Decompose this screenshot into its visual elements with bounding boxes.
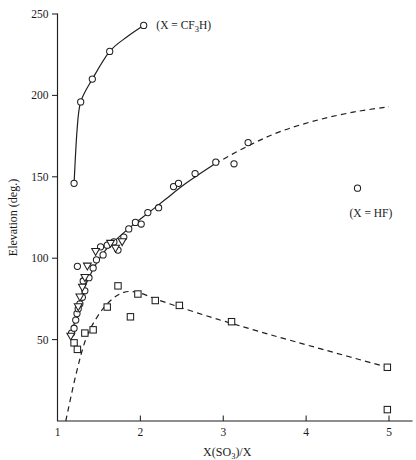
marker-triangle-down — [67, 333, 75, 340]
marker-circle — [71, 180, 77, 186]
marker-series — [68, 140, 251, 337]
marker-circle — [156, 205, 162, 211]
scatter-plot: 5010015020025012345 X(SO3)/XElevation (d… — [0, 0, 416, 460]
x-axis-label: X(SO3)/X — [203, 445, 252, 460]
marker-square — [115, 283, 121, 289]
axes: 5010015020025012345 — [31, 8, 412, 438]
marker-triangle-down — [92, 248, 100, 255]
x-tick-label: 1 — [55, 426, 61, 438]
x-tick-label: 4 — [303, 426, 309, 438]
marker-square — [82, 330, 88, 336]
x-tick-label: 5 — [386, 426, 392, 438]
x-tick-label: 3 — [220, 426, 226, 438]
series-curve-dashed — [66, 291, 388, 421]
marker-circle — [100, 252, 106, 258]
x-tick-label: 2 — [138, 426, 144, 438]
marker-circle — [138, 221, 144, 227]
marker-circle — [175, 180, 181, 186]
marker-circle — [231, 161, 237, 167]
marker-circle — [245, 140, 251, 146]
marker-circle — [73, 317, 79, 323]
series-curve-dashed — [215, 107, 389, 164]
marker-circle — [141, 22, 147, 28]
marker-circle — [192, 170, 198, 176]
marker-circle — [126, 226, 132, 232]
marker-circle — [89, 76, 95, 82]
marker-series — [71, 22, 147, 186]
marker-square — [384, 364, 390, 370]
marker-circle — [90, 265, 96, 271]
marker-square — [127, 314, 133, 320]
marker-circle — [74, 263, 80, 269]
y-tick-label: 50 — [37, 334, 49, 346]
marker-square — [176, 302, 182, 308]
marker-triangle-down — [118, 239, 126, 246]
marker-series — [71, 283, 391, 413]
marker-circle — [71, 325, 77, 331]
marker-square — [152, 297, 158, 303]
y-tick-label: 100 — [31, 252, 49, 264]
marker-circle — [107, 48, 113, 54]
marker-circle — [354, 185, 360, 191]
marker-circle — [132, 219, 138, 225]
marker-square — [74, 346, 80, 352]
series-curve-solid — [71, 164, 215, 340]
marker-square — [104, 304, 110, 310]
marker-series — [354, 185, 360, 191]
marker-square — [228, 318, 234, 324]
marker-circle — [78, 99, 84, 105]
marker-square — [135, 291, 141, 297]
marker-circle — [93, 257, 99, 263]
y-tick-label: 150 — [31, 171, 49, 183]
marker-square — [90, 327, 96, 333]
marker-circle — [213, 159, 219, 165]
curves — [66, 25, 389, 421]
y-tick-label: 200 — [31, 89, 49, 101]
y-tick-label: 250 — [31, 8, 49, 20]
marker-square — [384, 406, 390, 412]
marker-circle — [145, 210, 151, 216]
marker-square — [71, 340, 77, 346]
hf-label: (X = HF) — [349, 207, 392, 220]
figure-container: 5010015020025012345 X(SO3)/XElevation (d… — [0, 0, 416, 460]
cf3h-label: (X = CF3H) — [156, 19, 211, 34]
y-axis-label: Elevation (deg.) — [6, 179, 20, 256]
